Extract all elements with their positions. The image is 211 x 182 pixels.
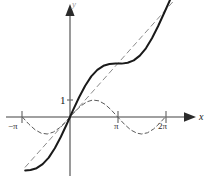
plot-canvas [0,0,211,182]
x-axis-label: x [199,112,203,122]
x-axis-arrow-icon [184,112,196,122]
math-figure: Graph of y = x + sin x with y = x and y … [0,0,211,182]
line-y-equals-x [25,0,175,167]
x-tick-label-2pi: 2π [158,122,167,131]
x-tick-label-pi: π [114,122,119,131]
curve-x-plus-sine [25,0,175,170]
x-tick-label-neg-pi: −π [8,122,18,131]
y-tick-label-one: 1 [60,95,66,106]
y-axis-label: y [72,0,76,9]
